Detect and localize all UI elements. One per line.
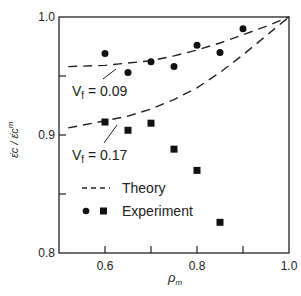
experiment-square-point bbox=[194, 167, 201, 174]
x-axis-ticks bbox=[105, 246, 243, 253]
legend-experiment-label: Experiment bbox=[122, 203, 193, 219]
theory-curve bbox=[68, 17, 289, 67]
chart: 0.60.81.0 0.80.91.0 Vf = 0.09 Vf = 0.17 … bbox=[0, 0, 301, 296]
y-tick-label: 0.9 bbox=[38, 128, 55, 142]
legend-circle-marker bbox=[83, 208, 90, 215]
experiment-square-point bbox=[148, 120, 155, 127]
theory-curve bbox=[68, 17, 289, 128]
vf2-label: Vf = 0.17 bbox=[72, 147, 128, 165]
experiment-circle-point bbox=[194, 42, 201, 49]
y-tick-label: 0.8 bbox=[38, 246, 55, 260]
x-tick-label: 1.0 bbox=[281, 259, 298, 273]
y-tick-label: 1.0 bbox=[38, 10, 55, 24]
y-axis-ticks bbox=[59, 76, 66, 194]
experiment-square-point bbox=[102, 119, 109, 126]
experiment-circle-point bbox=[240, 25, 247, 32]
x-tick-label: 0.6 bbox=[97, 259, 114, 273]
x-axis-label: ρm bbox=[167, 270, 182, 287]
vf2-pointer bbox=[104, 125, 117, 143]
vf1-label: Vf = 0.09 bbox=[72, 83, 128, 101]
experiment-circle-point bbox=[102, 50, 109, 57]
x-axis-tick-labels: 0.60.81.0 bbox=[97, 259, 298, 273]
experiment-circle-point bbox=[217, 49, 224, 56]
experiment-square-point bbox=[171, 146, 178, 153]
theory-curves bbox=[68, 17, 289, 128]
experiment-circle-point bbox=[148, 58, 155, 65]
experiment-square-point bbox=[217, 219, 224, 226]
legend-theory-label: Theory bbox=[122, 180, 166, 196]
legend: Theory Experiment bbox=[82, 180, 193, 219]
experiment-circle-point bbox=[171, 63, 178, 70]
legend-square-marker bbox=[100, 208, 107, 215]
y-axis-tick-labels: 0.80.91.0 bbox=[38, 10, 55, 260]
vf1-pointer bbox=[103, 69, 116, 79]
experiment-circle-point bbox=[125, 69, 132, 76]
y-axis-label: ε̇c / ε̇cm bbox=[6, 121, 20, 158]
x-tick-label: 0.8 bbox=[189, 259, 206, 273]
experiment-square-point bbox=[125, 127, 132, 134]
